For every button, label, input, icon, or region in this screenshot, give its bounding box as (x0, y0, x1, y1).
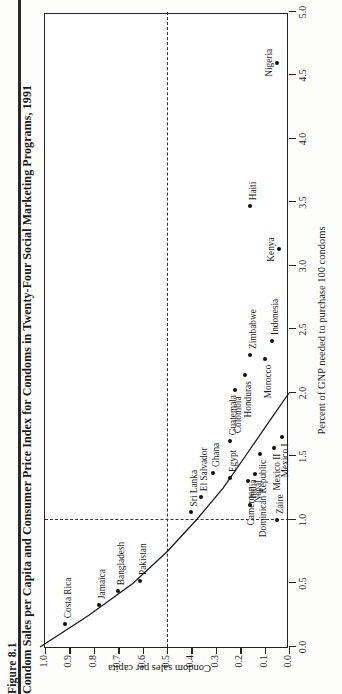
x-axis-tick-label: 5.0 (297, 0, 308, 27)
data-point-label: Mexico I (281, 443, 290, 477)
x-axis-tick (289, 328, 296, 329)
x-axis-tick (289, 582, 296, 583)
x-axis-tick-label: 0.0 (297, 632, 308, 662)
y-axis-tick (94, 647, 95, 654)
data-point-label: Jamaica (98, 569, 107, 599)
y-axis-tick (240, 647, 241, 654)
data-point-label: Zaire (276, 494, 285, 514)
y-axis-tick-label: 0.0 (282, 655, 293, 683)
x-axis-tick (289, 74, 296, 75)
figure-heading: Figure 8.1 Condom Sales per Capita and C… (6, 0, 35, 694)
y-axis-tick (289, 647, 290, 654)
data-point-label: Ghana (212, 443, 221, 467)
figure-title: Condom Sales per Capita and Consumer Pri… (20, 0, 35, 694)
data-point-label: Honduras (244, 381, 253, 417)
data-point[interactable] (263, 357, 267, 361)
x-axis-tick-label: 3.5 (297, 188, 308, 218)
x-axis-tick-label: 0.5 (297, 569, 308, 599)
data-point-label: Zimbabwe (249, 309, 258, 349)
data-point-label: Kenya (267, 237, 276, 261)
data-point-label: Indonesia (271, 299, 280, 335)
x-axis-tick (289, 519, 296, 520)
y-axis-tick (45, 647, 46, 654)
y-axis-title: Condom sales per capita (50, 663, 270, 674)
y-axis-tick (265, 647, 266, 654)
x-axis-tick-label: 4.0 (297, 124, 308, 154)
x-axis-tick-label: 4.5 (297, 61, 308, 91)
y-axis-tick (118, 647, 119, 654)
data-point-label: Nigeria (265, 49, 274, 77)
plot-area: Costa RicaJamaicaBangladeshPakistanZaire… (45, 14, 287, 647)
x-axis-tick (289, 265, 296, 266)
x-axis-tick-label: 3.0 (297, 251, 308, 281)
y-axis-tick (143, 647, 144, 654)
data-point-label: Egypt (229, 450, 238, 472)
data-point-label: Costa Rica (64, 578, 73, 619)
data-point[interactable] (97, 603, 101, 607)
scatter-chart: Costa RicaJamaicaBangladeshPakistanZaire… (44, 0, 339, 694)
figure-page: Figure 8.1 Condom Sales per Capita and C… (0, 0, 342, 694)
data-point-label: Morocco (264, 365, 273, 399)
x-axis-tick (289, 392, 296, 393)
rotated-figure-container: Figure 8.1 Condom Sales per Capita and C… (0, 0, 342, 694)
figure-number: Figure 8.1 (6, 0, 18, 694)
y-axis-tick (69, 647, 70, 654)
y-axis-tick-label: 1.0 (38, 655, 49, 683)
data-point[interactable] (270, 339, 274, 343)
data-point-label: El Salvador (200, 448, 209, 492)
x-axis-tick (289, 455, 296, 456)
x-axis-tick (289, 11, 296, 12)
x-axis-tick (289, 138, 296, 139)
data-point[interactable] (63, 622, 67, 626)
x-axis-tick (289, 201, 296, 202)
y-axis-tick (191, 647, 192, 654)
data-point-label: Dominican Republic (259, 460, 268, 537)
x-axis-tick-label: 1.0 (297, 505, 308, 535)
data-point[interactable] (248, 353, 252, 357)
data-point-label: Pakistan (139, 543, 148, 575)
x-axis-tick-label: 1.5 (297, 442, 308, 472)
data-point-label: Bangladesh (117, 542, 126, 585)
x-axis-title: Percent of GNP needed to purchase 100 co… (316, 13, 327, 648)
data-point-label: Haiti (249, 182, 258, 201)
y-axis-tick (167, 647, 168, 654)
y-axis-tick (216, 647, 217, 654)
x-axis-tick-label: 2.0 (297, 378, 308, 408)
data-point[interactable] (275, 61, 279, 65)
data-point[interactable] (246, 479, 250, 483)
x-axis-tick-label: 2.5 (297, 315, 308, 345)
data-point[interactable] (275, 518, 279, 522)
plot-frame: Costa RicaJamaicaBangladeshPakistanZaire… (44, 13, 288, 648)
data-point[interactable] (258, 452, 262, 456)
